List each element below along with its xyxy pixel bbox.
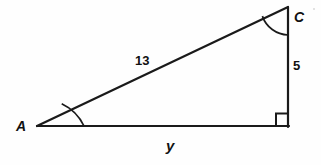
angle-arc-a — [62, 104, 84, 126]
angle-arc-c — [262, 16, 288, 35]
right-angle-marker — [276, 114, 287, 126]
side-label-base: y — [166, 138, 174, 153]
side-label-hypotenuse: 13 — [135, 54, 149, 67]
vertex-label-a: A — [16, 119, 26, 133]
triangle-drawing — [0, 0, 321, 165]
side-label-vertical: 5 — [293, 59, 300, 72]
vertex-label-c: C — [294, 10, 304, 24]
geometry-figure: A C 13 5 y — [0, 0, 321, 165]
triangle-side-hypotenuse — [37, 7, 288, 126]
scan-artifact-speck — [313, 8, 315, 10]
